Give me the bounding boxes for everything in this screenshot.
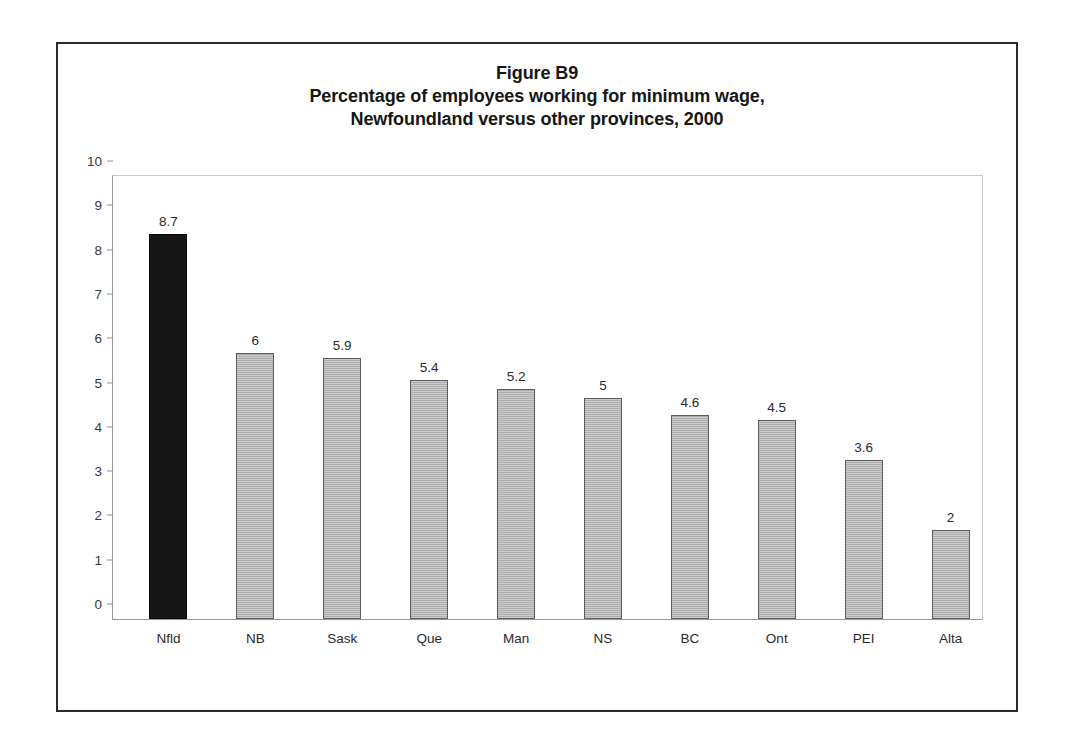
bar-group: 2Alta — [932, 176, 970, 619]
x-axis-category-label: NB — [246, 631, 265, 646]
y-axis-tick: 3 — [94, 464, 113, 479]
y-axis-tick-mark — [107, 161, 113, 162]
y-axis-tick-mark — [107, 293, 113, 294]
bar[interactable] — [845, 460, 883, 619]
bar-value-label: 5.2 — [507, 369, 526, 384]
y-axis-tick-label: 9 — [94, 198, 107, 213]
chart-title: Figure B9 Percentage of employees workin… — [58, 62, 1016, 131]
x-axis-category-label: NS — [594, 631, 613, 646]
y-axis-tick: 1 — [94, 552, 113, 567]
x-axis-category-label: Que — [416, 631, 442, 646]
y-axis-tick: 0 — [94, 597, 113, 612]
bar-column: 3.6 — [845, 460, 883, 619]
plot-area: 012345678910 8.7Nfld6NB5.9Sask5.4Que5.2M… — [112, 175, 983, 620]
bar-column: 2 — [932, 530, 970, 619]
y-axis-tick-label: 8 — [94, 242, 107, 257]
y-axis-tick-mark — [107, 249, 113, 250]
y-axis-tick-label: 10 — [87, 154, 107, 169]
bar[interactable] — [671, 415, 709, 619]
x-axis-category-label: Nfld — [156, 631, 180, 646]
y-axis-tick-label: 7 — [94, 286, 107, 301]
chart-title-line-1: Figure B9 — [58, 62, 1016, 85]
bar-group: 3.6PEI — [845, 176, 883, 619]
y-axis-tick-mark — [107, 515, 113, 516]
chart-title-line-2: Percentage of employees working for mini… — [58, 85, 1016, 108]
bar-group: 5.2Man — [497, 176, 535, 619]
x-axis-category-label: Sask — [327, 631, 357, 646]
bar[interactable] — [410, 380, 448, 619]
chart-title-line-3: Newfoundland versus other provinces, 200… — [58, 108, 1016, 131]
bar-column: 8.7 — [149, 234, 187, 619]
y-axis-tick-mark — [107, 471, 113, 472]
x-axis-category-label: Man — [503, 631, 529, 646]
bar[interactable] — [497, 389, 535, 619]
bar[interactable] — [758, 420, 796, 619]
y-axis-tick-mark — [107, 205, 113, 206]
bar-group: 4.6BC — [671, 176, 709, 619]
y-axis-tick-mark — [107, 426, 113, 427]
y-axis-tick-label: 4 — [94, 419, 107, 434]
bar-value-label: 5.4 — [420, 360, 439, 375]
bar-column: 5.9 — [323, 358, 361, 619]
bar-group: 5.4Que — [410, 176, 448, 619]
figure-frame: Figure B9 Percentage of employees workin… — [56, 42, 1018, 712]
bar[interactable] — [932, 530, 970, 619]
bar-value-label: 4.6 — [680, 395, 699, 410]
bar-value-label: 2 — [947, 510, 955, 525]
bar[interactable] — [323, 358, 361, 619]
y-axis-tick-mark — [107, 382, 113, 383]
bar-column: 4.6 — [671, 415, 709, 619]
bar-group: 8.7Nfld — [149, 176, 187, 619]
x-axis-category-label: PEI — [853, 631, 875, 646]
bar-column: 6 — [236, 353, 274, 619]
y-axis-tick: 8 — [94, 242, 113, 257]
y-axis-tick: 6 — [94, 331, 113, 346]
y-axis-tick: 4 — [94, 419, 113, 434]
x-axis-category-label: BC — [680, 631, 699, 646]
bar-value-label: 5.9 — [333, 338, 352, 353]
y-axis-tick-label: 6 — [94, 331, 107, 346]
bar[interactable] — [149, 234, 187, 619]
bar-value-label: 6 — [252, 333, 260, 348]
bar-value-label: 3.6 — [854, 440, 873, 455]
bar-value-label: 5 — [599, 378, 607, 393]
y-axis-tick-mark — [107, 338, 113, 339]
y-axis-tick-mark — [107, 604, 113, 605]
x-axis-category-label: Alta — [939, 631, 962, 646]
y-axis-tick: 10 — [87, 154, 113, 169]
y-axis-tick-label: 5 — [94, 375, 107, 390]
bar-value-label: 4.5 — [767, 400, 786, 415]
y-axis-tick-mark — [107, 559, 113, 560]
bar-column: 4.5 — [758, 420, 796, 619]
bar-group: 4.5Ont — [758, 176, 796, 619]
y-axis-tick: 9 — [94, 198, 113, 213]
y-axis-tick: 7 — [94, 286, 113, 301]
bar-column: 5 — [584, 398, 622, 620]
bar-group: 5NS — [584, 176, 622, 619]
x-axis-category-label: Ont — [766, 631, 788, 646]
bar-column: 5.4 — [410, 380, 448, 619]
y-axis-tick: 2 — [94, 508, 113, 523]
bar-value-label: 8.7 — [159, 214, 178, 229]
y-axis-tick-label: 3 — [94, 464, 107, 479]
y-axis-tick-label: 0 — [94, 597, 107, 612]
bar-group: 5.9Sask — [323, 176, 361, 619]
bar[interactable] — [584, 398, 622, 620]
bar-column: 5.2 — [497, 389, 535, 619]
bar[interactable] — [236, 353, 274, 619]
bar-group: 6NB — [236, 176, 274, 619]
y-axis-tick: 5 — [94, 375, 113, 390]
y-axis-tick-label: 2 — [94, 508, 107, 523]
y-axis-tick-label: 1 — [94, 552, 107, 567]
